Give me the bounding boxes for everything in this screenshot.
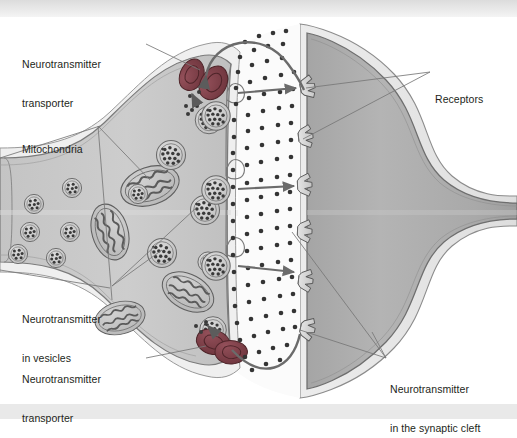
synaptic-vesicle-small <box>20 222 39 241</box>
label-line: in the synaptic cleft <box>390 422 480 435</box>
label-neurotransmitter-transporter-top: Neurotransmitter transporter <box>22 32 101 123</box>
label-line: Neurotransmitter <box>390 383 480 396</box>
label-receptors: Receptors <box>435 67 483 119</box>
synaptic-vesicle-small <box>46 248 65 267</box>
label-line: transporter <box>22 412 101 425</box>
fusing-vesicle <box>202 252 230 280</box>
label-line: Mitochondria <box>22 143 83 156</box>
fusing-vesicle <box>202 176 230 204</box>
synaptic-vesicle-small <box>24 194 43 213</box>
synaptic-vesicle <box>148 239 177 268</box>
synaptic-vesicle-small <box>8 244 27 263</box>
synaptic-vesicle-small <box>128 184 147 203</box>
top-scan-band <box>0 0 517 17</box>
synaptic-vesicle <box>157 141 186 170</box>
label-mitochondria: Mitochondria <box>22 117 83 169</box>
label-neurotransmitter-transporter-bottom: Neurotransmitter transporter <box>22 347 101 438</box>
label-line: Receptors <box>435 93 483 106</box>
label-line: transporter <box>22 97 101 110</box>
postsynaptic-seam <box>307 210 517 215</box>
synaptic-vesicle-small <box>62 178 81 197</box>
label-neurotransmitter-in-the-synaptic-cleft: Neurotransmitter in the synaptic cleft <box>390 357 480 438</box>
label-line: Neurotransmitter <box>22 313 101 326</box>
label-line: Neurotransmitter <box>22 58 101 71</box>
synaptic-vesicle-small <box>60 222 79 241</box>
label-line: Neurotransmitter <box>22 373 101 386</box>
fusing-vesicle <box>202 102 230 130</box>
